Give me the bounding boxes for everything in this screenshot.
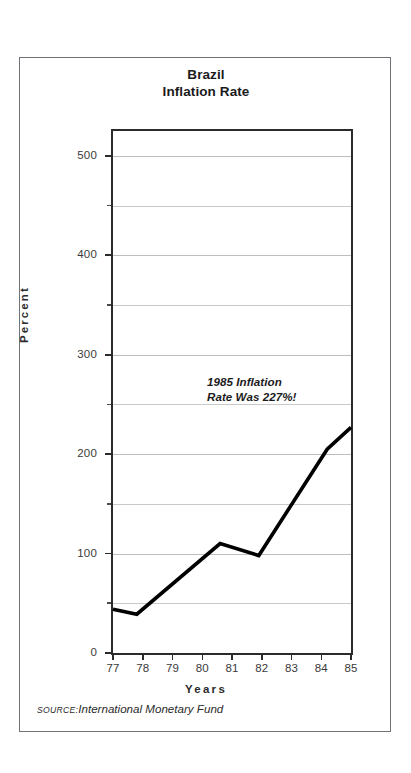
y-axis-tick	[107, 304, 111, 306]
y-axis-tick	[107, 404, 111, 406]
y-axis-tick-label: 100	[51, 547, 97, 559]
x-axis-tick-label: 81	[219, 662, 245, 674]
x-axis-tick	[350, 653, 352, 660]
chart-page: Brazil Inflation Rate Percent Years 1985…	[0, 0, 411, 773]
x-axis-tick	[231, 653, 233, 660]
y-axis-tick	[105, 553, 111, 555]
x-axis-tick	[291, 653, 293, 660]
x-axis-title: Years	[20, 683, 392, 695]
y-axis-tick-label: 500	[51, 149, 97, 161]
series-line-brazil-inflation	[113, 427, 351, 614]
chart-title: Brazil Inflation Rate	[20, 66, 392, 100]
y-axis-tick	[105, 652, 111, 654]
source-note: SOURCE:International Monetary Fund	[37, 702, 223, 715]
x-axis-tick-label: 78	[130, 662, 156, 674]
x-axis-tick-label: 83	[279, 662, 305, 674]
y-axis-tick	[105, 453, 111, 455]
y-axis-tick	[105, 354, 111, 356]
y-axis-tick	[107, 205, 111, 207]
source-text: International Monetary Fund	[78, 702, 223, 715]
y-axis-tick-label: 400	[51, 248, 97, 260]
x-axis-tick	[142, 653, 144, 660]
chart-card: Brazil Inflation Rate Percent Years 1985…	[19, 57, 391, 732]
x-axis-tick-label: 84	[308, 662, 334, 674]
y-axis-tick	[107, 503, 111, 505]
x-axis-tick	[321, 653, 323, 660]
x-axis-tick-label: 82	[249, 662, 275, 674]
y-axis-tick	[107, 602, 111, 604]
x-axis-tick-label: 77	[100, 662, 126, 674]
y-axis-tick	[105, 155, 111, 157]
x-axis-tick	[261, 653, 263, 660]
source-kicker: SOURCE:	[37, 705, 78, 715]
annotation-line-1: 1985 Inflation	[207, 375, 337, 390]
chart-annotation: 1985 Inflation Rate Was 227%!	[207, 375, 337, 404]
x-axis-tick-label: 80	[189, 662, 215, 674]
y-axis-title: Percent	[18, 286, 30, 343]
y-axis-tick-label: 300	[51, 348, 97, 360]
annotation-line-2: Rate Was 227%!	[207, 390, 337, 405]
x-axis-tick	[202, 653, 204, 660]
x-axis-tick-label: 79	[160, 662, 186, 674]
x-axis-tick	[172, 653, 174, 660]
x-axis-tick-label: 85	[338, 662, 364, 674]
chart-title-line-1: Brazil	[20, 66, 392, 83]
y-axis-tick-label: 0	[51, 646, 97, 658]
y-axis-tick	[105, 254, 111, 256]
chart-title-line-2: Inflation Rate	[20, 83, 392, 100]
y-axis-tick-label: 200	[51, 447, 97, 459]
x-axis-tick	[112, 653, 114, 660]
